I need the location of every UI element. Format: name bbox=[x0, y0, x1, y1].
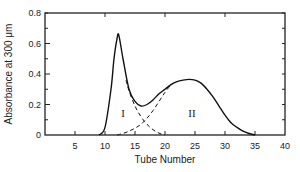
x-tick-label: 10 bbox=[100, 141, 110, 151]
y-axis-label: Absorbance at 300 μm bbox=[3, 24, 14, 125]
chart-svg: 51015202530354000.20.40.60.8 Tube Number… bbox=[0, 0, 300, 172]
plot-frame bbox=[45, 13, 285, 135]
total-curve bbox=[99, 34, 255, 135]
plot-axes: 51015202530354000.20.40.60.8 bbox=[28, 8, 290, 151]
component-curve-1 bbox=[126, 80, 165, 135]
x-tick-label: 35 bbox=[250, 141, 260, 151]
x-tick-label: 5 bbox=[72, 141, 77, 151]
y-tick-label: 0.2 bbox=[28, 100, 41, 110]
peak-label: I bbox=[121, 107, 125, 119]
x-tick-label: 25 bbox=[190, 141, 200, 151]
y-tick-label: 0.4 bbox=[28, 69, 41, 79]
x-tick-label: 30 bbox=[220, 141, 230, 151]
chromatogram-figure: 51015202530354000.20.40.60.8 Tube Number… bbox=[0, 0, 300, 172]
x-axis-label: Tube Number bbox=[135, 154, 196, 165]
y-tick-label: 0.8 bbox=[28, 8, 41, 18]
component-curve-2 bbox=[117, 85, 171, 135]
peak-label: II bbox=[188, 107, 196, 119]
y-tick-label: 0 bbox=[36, 130, 41, 140]
x-tick-label: 40 bbox=[280, 141, 290, 151]
plot-curves bbox=[99, 34, 255, 135]
x-tick-label: 20 bbox=[160, 141, 170, 151]
y-tick-label: 0.6 bbox=[28, 39, 41, 49]
x-tick-label: 15 bbox=[130, 141, 140, 151]
